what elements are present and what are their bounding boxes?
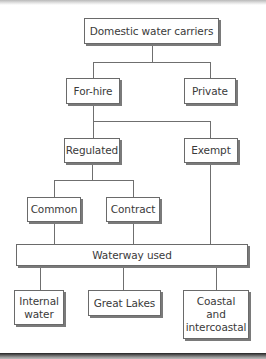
scan-edge-top — [0, 0, 266, 5]
scan-edge-bottom — [0, 353, 266, 359]
connector-to-coastal — [216, 265, 217, 290]
node-coastal-and-intercoastal: Coastal and intercoastal — [183, 290, 249, 339]
node-common: Common — [27, 197, 81, 222]
connector-root-down — [152, 44, 153, 62]
node-private: Private — [184, 78, 236, 104]
connector-regulated-down — [92, 163, 93, 180]
connector-to-exempt — [210, 121, 211, 138]
connector-to-great-lakes — [123, 265, 124, 290]
connector-root-branch — [93, 62, 211, 63]
node-great-lakes: Great Lakes — [88, 290, 161, 316]
node-waterway-used: Waterway used — [16, 244, 248, 266]
connector-exempt-down — [210, 163, 211, 244]
connector-for-hire-branch — [93, 121, 211, 122]
node-for-hire: For-hire — [66, 78, 120, 104]
node-domestic-water-carriers: Domestic water carriers — [84, 18, 219, 44]
node-internal-water: Internal water — [14, 290, 64, 325]
connector-to-private — [210, 62, 211, 78]
node-contract: Contract — [106, 197, 160, 222]
connector-common-down — [54, 222, 55, 244]
connector-to-for-hire — [93, 62, 94, 78]
connector-regulated-branch — [54, 180, 134, 181]
connector-to-internal-water — [40, 265, 41, 290]
connector-to-contract — [133, 180, 134, 197]
node-regulated: Regulated — [64, 138, 120, 163]
connector-contract-down — [133, 222, 134, 244]
node-exempt: Exempt — [184, 138, 238, 163]
connector-to-common — [54, 180, 55, 197]
